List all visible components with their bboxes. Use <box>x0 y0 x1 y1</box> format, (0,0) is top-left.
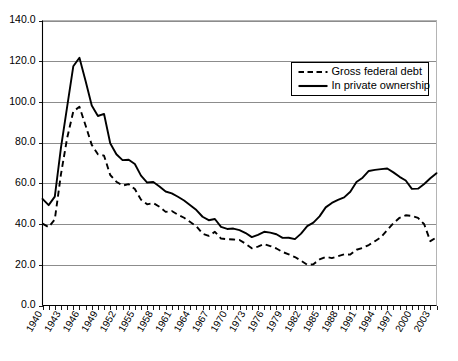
x-tick-label: 1997 <box>374 309 395 334</box>
y-tick-label: 20.0 <box>15 258 36 270</box>
x-tick-label: 1991 <box>338 309 359 334</box>
x-tick-label: 1994 <box>356 309 377 334</box>
y-tick-label: 40.0 <box>15 217 36 229</box>
x-tick-label: 1955 <box>116 309 137 334</box>
x-axis <box>43 306 438 310</box>
y-tick-label: 140.0 <box>9 13 35 25</box>
y-tick-label: 120.0 <box>9 54 35 66</box>
x-tick-label: 2000 <box>393 309 414 334</box>
y-tick-label: 60.0 <box>15 176 36 188</box>
x-tick-label: 1967 <box>190 309 211 334</box>
legend-label: In private ownership <box>332 79 430 91</box>
chart-container: 0.020.040.060.080.0100.0120.0140.0 19401… <box>0 0 458 361</box>
x-tick-label: 1985 <box>301 309 322 334</box>
x-tick-label: 1979 <box>264 309 285 334</box>
x-tick-label: 2003 <box>411 309 432 334</box>
x-tick-label: 1958 <box>134 309 155 334</box>
series-line <box>43 107 437 265</box>
x-tick-label: 1946 <box>61 309 82 334</box>
x-tick-label: 1940 <box>24 309 45 334</box>
line-chart: 0.020.040.060.080.0100.0120.0140.0 19401… <box>0 0 458 361</box>
x-tick-label: 1961 <box>153 309 174 334</box>
x-tick-label: 1949 <box>79 309 100 334</box>
x-tick-label: 1943 <box>42 309 63 334</box>
y-tick-label: 0.0 <box>21 298 36 310</box>
legend-label: Gross federal debt <box>332 65 423 77</box>
y-tick-labels: 0.020.040.060.080.0100.0120.0140.0 <box>9 13 35 310</box>
x-tick-label: 1952 <box>97 309 118 334</box>
x-tick-label: 1973 <box>227 309 248 334</box>
x-tick-label: 1988 <box>319 309 340 334</box>
x-tick-label: 1964 <box>171 309 192 334</box>
y-tick-label: 80.0 <box>15 135 36 147</box>
chart-legend: Gross federal debtIn private ownership <box>292 63 430 96</box>
grid-lines <box>43 22 437 266</box>
y-tick-label: 100.0 <box>9 95 35 107</box>
x-tick-label: 1970 <box>208 309 229 334</box>
y-axis <box>39 21 43 307</box>
x-tick-label: 1976 <box>245 309 266 334</box>
x-tick-labels: 1940194319461949195219551958196119641967… <box>24 309 433 334</box>
x-tick-label: 1982 <box>282 309 303 334</box>
